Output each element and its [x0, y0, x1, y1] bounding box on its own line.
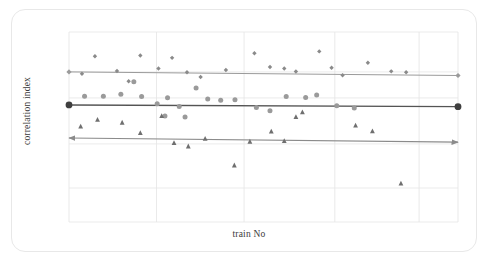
y-axis-label: correlation index — [22, 56, 32, 166]
x-axis-label: train No — [209, 229, 289, 239]
chart-figure: correlation index train No — [0, 0, 490, 265]
figure-card-border — [11, 9, 477, 252]
